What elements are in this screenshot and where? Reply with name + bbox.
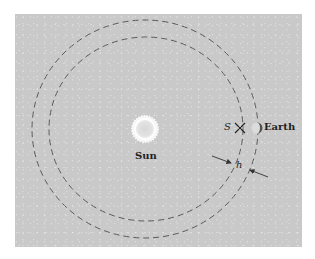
earth-label: Earth	[264, 121, 295, 132]
earth-icon	[252, 123, 263, 134]
satellite-label: S	[224, 121, 231, 132]
sun-icon	[132, 116, 158, 142]
gap-label: h	[236, 159, 242, 170]
sun-label: Sun	[135, 150, 157, 161]
satellite-icon	[235, 123, 245, 133]
